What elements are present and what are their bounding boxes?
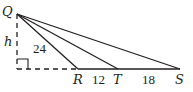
segment-label-RT: 12 bbox=[92, 72, 105, 87]
point-label-R: R bbox=[72, 72, 83, 87]
geometry-diagram: Q h 24 R 12 T 18 S bbox=[0, 0, 193, 92]
height-label-h: h bbox=[4, 34, 12, 49]
point-label-Q: Q bbox=[2, 4, 13, 19]
segment-label-QR: 24 bbox=[33, 41, 47, 56]
point-label-S: S bbox=[175, 72, 184, 87]
right-angle-marker bbox=[17, 59, 28, 69]
segment-label-TS: 18 bbox=[142, 72, 155, 87]
point-label-T: T bbox=[113, 72, 123, 87]
